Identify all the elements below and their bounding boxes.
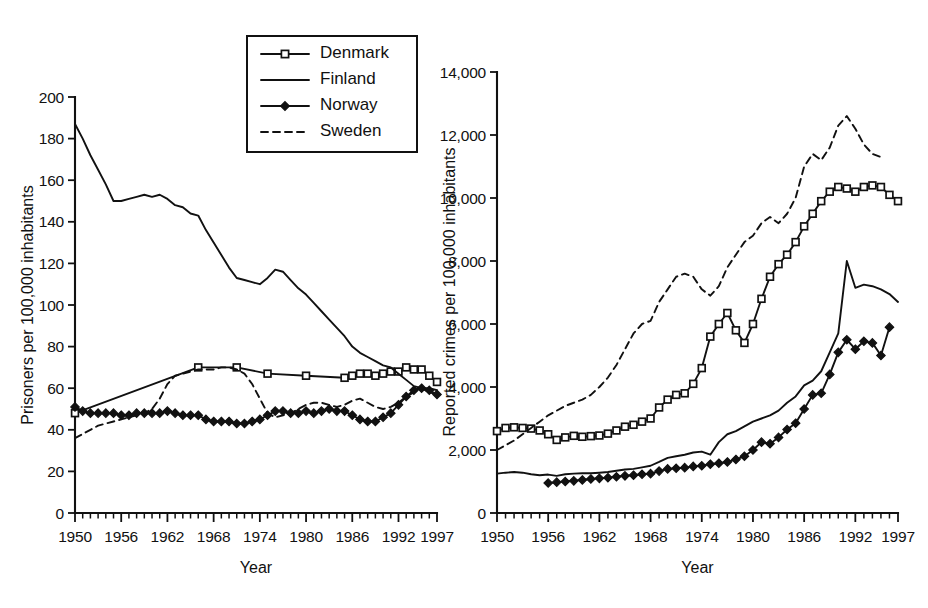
marker-denmark — [758, 295, 765, 302]
marker-denmark — [494, 428, 501, 435]
y-axis-title: Reported crimes per 100,000 inhabitants — [441, 147, 458, 436]
x-tick-label: 1950 — [58, 528, 92, 545]
marker-norway — [340, 407, 348, 415]
x-tick-label: 1962 — [151, 528, 185, 545]
y-tick-label: 60 — [47, 380, 64, 397]
marker-denmark — [715, 321, 722, 328]
marker-norway — [621, 472, 629, 480]
y-tick-label: 0 — [56, 505, 65, 522]
marker-norway — [553, 478, 561, 486]
marker-denmark — [767, 273, 774, 280]
marker-norway — [194, 411, 202, 419]
marker-norway — [317, 407, 325, 415]
series-line-finland — [75, 124, 437, 394]
marker-denmark — [426, 372, 433, 379]
y-tick-label: 2,000 — [448, 442, 486, 459]
chart-panel-reported-crimes: 02,0004,0006,0008,00010,00012,00014,0001… — [440, 64, 915, 577]
marker-norway — [202, 415, 210, 423]
marker-norway — [256, 415, 264, 423]
marker-norway — [587, 475, 595, 483]
x-tick-label: 1980 — [289, 528, 323, 545]
marker-denmark — [605, 430, 612, 437]
marker-denmark — [630, 421, 637, 428]
marker-norway — [225, 417, 233, 425]
marker-denmark — [613, 427, 620, 434]
marker-denmark — [818, 198, 825, 205]
y-tick-label: 120 — [39, 255, 65, 272]
x-tick-label: 1974 — [685, 528, 719, 545]
marker-denmark — [596, 432, 603, 439]
marker-norway — [570, 477, 578, 485]
x-tick-label: 1986 — [335, 528, 369, 545]
legend-label-denmark: Denmark — [320, 43, 389, 62]
marker-denmark — [681, 390, 688, 397]
marker-denmark — [357, 370, 364, 377]
marker-norway — [706, 460, 714, 468]
marker-denmark — [835, 184, 842, 191]
marker-denmark — [878, 184, 885, 191]
x-axis-title: Year — [681, 559, 714, 576]
legend-label-sweden: Sweden — [320, 121, 381, 140]
marker-norway — [723, 458, 731, 466]
marker-denmark — [826, 188, 833, 195]
marker-denmark — [690, 380, 697, 387]
marker-denmark — [579, 433, 586, 440]
marker-norway — [248, 417, 256, 425]
marker-norway — [356, 415, 364, 423]
marker-denmark — [562, 434, 569, 441]
x-tick-label: 1968 — [197, 528, 231, 545]
marker-denmark — [801, 223, 808, 230]
x-tick-label: 1956 — [104, 528, 138, 545]
marker-norway — [163, 407, 171, 415]
marker-denmark — [622, 423, 629, 430]
marker-denmark — [372, 372, 379, 379]
marker-denmark — [895, 198, 902, 205]
y-tick-label: 180 — [39, 130, 65, 147]
marker-norway — [663, 465, 671, 473]
marker-norway — [689, 462, 697, 470]
marker-norway — [655, 467, 663, 475]
marker-denmark — [410, 366, 417, 373]
marker-norway — [302, 407, 310, 415]
marker-norway — [79, 407, 87, 415]
marker-denmark — [775, 261, 782, 268]
marker-denmark — [809, 210, 816, 217]
marker-denmark — [418, 366, 425, 373]
marker-denmark — [519, 425, 526, 432]
marker-norway — [826, 370, 834, 378]
marker-norway — [544, 479, 552, 487]
marker-norway — [681, 463, 689, 471]
x-tick-label: 1992 — [382, 528, 416, 545]
legend-marker-square — [281, 50, 288, 57]
marker-norway — [240, 419, 248, 427]
y-tick-label: 160 — [39, 172, 65, 189]
marker-norway — [715, 459, 723, 467]
marker-denmark — [264, 370, 271, 377]
series-line-denmark — [497, 185, 898, 440]
marker-denmark — [553, 437, 560, 444]
marker-denmark — [784, 251, 791, 258]
marker-denmark — [843, 185, 850, 192]
figure-two-panel-chart: 0204060801001201401601802001950195619621… — [0, 0, 928, 608]
marker-denmark — [792, 239, 799, 246]
marker-norway — [698, 462, 706, 470]
marker-denmark — [434, 379, 441, 386]
marker-denmark — [403, 364, 410, 371]
y-axis-title: Prisoners per 100,000 inhabitants — [19, 185, 36, 424]
legend: DenmarkFinlandNorwaySweden — [247, 36, 417, 152]
chart-panel-prisoners: 0204060801001201401601802001950195619621… — [19, 89, 454, 577]
series-line-sweden — [497, 116, 881, 450]
x-tick-label: 1992 — [838, 528, 872, 545]
marker-denmark — [570, 432, 577, 439]
y-tick-label: 80 — [47, 338, 64, 355]
marker-norway — [279, 407, 287, 415]
marker-denmark — [341, 374, 348, 381]
x-tick-label: 1962 — [583, 528, 617, 545]
marker-denmark — [750, 321, 757, 328]
marker-norway — [817, 389, 825, 397]
x-tick-label: 1956 — [531, 528, 565, 545]
marker-denmark — [741, 340, 748, 347]
marker-denmark — [707, 333, 714, 340]
marker-denmark — [380, 370, 387, 377]
x-tick-label: 1986 — [787, 528, 821, 545]
